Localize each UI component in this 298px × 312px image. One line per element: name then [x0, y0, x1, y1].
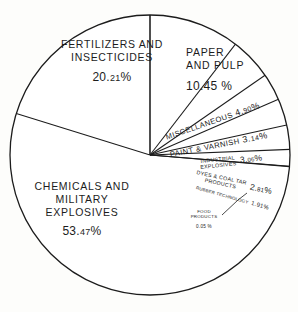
fertilizers-percent-dec: 21 [110, 73, 121, 83]
chemicals-label-line2: MILITARY [17, 193, 147, 206]
fertilizers-percent-symbol: % [121, 70, 132, 84]
industrial-percent-symbol: % [254, 153, 263, 164]
slice-label-chemicals-and-military-explosives: CHEMICALS AND MILITARY EXPLOSIVES 53.47% [17, 180, 147, 239]
chemicals-label-line3: EXPLOSIVES [17, 206, 147, 219]
paper-percent: 10.45 % [186, 79, 268, 94]
slice-label-food-products: FOOD PRODUCTS 0.05 % [183, 209, 225, 229]
fertilizers-percent-int: 20. [92, 70, 110, 84]
paper-label-line2: AND PULP [186, 59, 268, 72]
food-percent: 0.05 % [183, 224, 225, 230]
chemicals-percent-dec: 47 [80, 227, 91, 237]
fertilizers-percent: 20.21% [52, 70, 172, 85]
chemicals-label-line1: CHEMICALS AND [17, 180, 147, 193]
industrial-percent: 3.06% [240, 153, 263, 166]
slice-label-paper-and-pulp: PAPER AND PULP 10.45 % [186, 46, 268, 93]
fertilizers-label-line1: FERTILIZERS AND [52, 38, 172, 51]
pie-chart-figure: FERTILIZERS AND INSECTICIDES 20.21% PAPE… [0, 0, 298, 312]
chemicals-percent: 53.47% [17, 224, 147, 239]
food-label-line2: PRODUCTS [183, 214, 225, 219]
slice-label-fertilizers-and-insecticides: FERTILIZERS AND INSECTICIDES 20.21% [52, 38, 172, 84]
fertilizers-label-line2: INSECTICIDES [52, 51, 172, 64]
paper-label-line1: PAPER [186, 46, 268, 59]
paint-percent-symbol: % [258, 130, 268, 141]
chemicals-percent-symbol: % [91, 224, 102, 238]
chemicals-percent-int: 53. [62, 224, 80, 238]
